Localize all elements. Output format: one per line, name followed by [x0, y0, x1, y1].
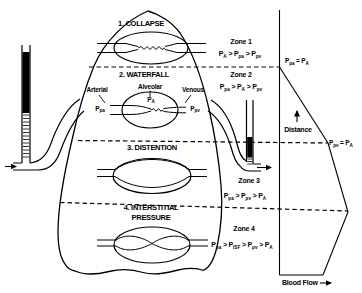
venous-pressure-label: Ppv — [190, 105, 200, 112]
arterial-scale-ticks — [23, 115, 29, 157]
zone2-name: Zone 2 — [230, 71, 251, 79]
zone3-name: Zone 3 — [238, 177, 259, 185]
zone4-relation: Ppa > PISF > Ppv > PA — [211, 241, 272, 249]
arterial-fluid-column — [23, 52, 30, 113]
venous-scale-ticks — [247, 159, 252, 164]
zone2-relation: Ppa > PA > Ppv — [220, 83, 262, 91]
blood-flow-profile — [280, 67, 349, 275]
venous-fluid-column — [247, 137, 252, 158]
venous-label: Venous — [182, 86, 204, 93]
zone3-relation: Ppa > Ppv > PA — [224, 192, 266, 200]
alveolar-pressure-label: PA — [147, 96, 154, 103]
arterial-vessel-inner — [13, 111, 84, 170]
zone3-distention-alveolus — [97, 159, 207, 194]
venous-manometer — [208, 100, 271, 171]
zone1-relation: PA > Ppa > Ppv — [219, 50, 261, 58]
zone2-3-boundary-dashed-line — [78, 141, 328, 144]
venous-vessel — [211, 100, 247, 161]
arterial-vessel — [30, 99, 80, 163]
zone4-interstitial-alveolus — [97, 227, 208, 263]
zone4-pressure-title: PRESSURE — [132, 214, 171, 222]
zone4-interstitial-title: 4. INTERSTITIAL — [124, 204, 179, 212]
ppv-equals-pa-label: Ppv = PA — [329, 139, 353, 146]
blood-flow-axis-label: Blood Flow — [282, 279, 318, 287]
figure-line-art — [0, 0, 362, 293]
arterial-pressure-label: Ppa — [95, 105, 105, 112]
zone2-waterfall-title: 2. WATERFALL — [119, 71, 169, 79]
distance-axis-label: Distance — [284, 126, 312, 134]
zone4-name: Zone 4 — [233, 225, 254, 233]
arterial-manometer — [5, 45, 84, 170]
zone2-waterfall-alveolus — [99, 91, 191, 129]
zone3-4-boundary-dashed-line — [60, 203, 348, 212]
zone1-collapse-title: 1. COLLAPSE — [118, 20, 164, 28]
zone1-name: Zone 1 — [230, 38, 251, 46]
alveolar-label: Alveolar — [138, 83, 162, 90]
arterial-label: Arterial — [86, 86, 107, 93]
west-zones-lung-figure: 1. COLLAPSE 2. WATERFALL 3. DISTENTION 4… — [0, 0, 362, 293]
ppa-equals-pa-label: Ppa = PA — [285, 57, 309, 64]
zone3-distention-title: 3. DISTENTION — [127, 144, 177, 152]
